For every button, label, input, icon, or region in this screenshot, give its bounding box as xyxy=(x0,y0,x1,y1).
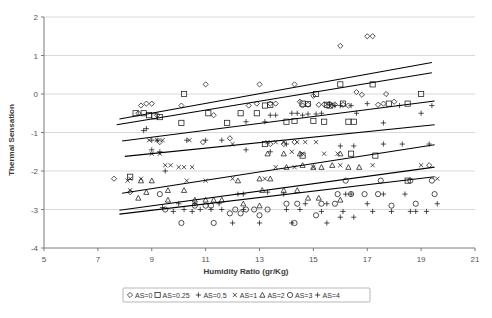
data-point xyxy=(206,111,211,116)
y-tick-label--3: -3 xyxy=(31,206,39,215)
data-point xyxy=(359,92,364,97)
y-tick-label--1: -1 xyxy=(31,129,39,138)
data-point xyxy=(257,213,262,218)
data-point xyxy=(227,136,232,141)
data-point xyxy=(429,103,434,108)
data-point xyxy=(295,111,300,116)
data-point xyxy=(375,192,380,197)
data-point xyxy=(182,165,186,169)
data-point xyxy=(381,192,386,197)
x-tick-label-7: 7 xyxy=(96,255,101,264)
data-point xyxy=(292,140,297,145)
data-point xyxy=(419,163,423,167)
data-point xyxy=(149,178,154,183)
x-tick-label-15: 15 xyxy=(309,255,318,264)
data-point xyxy=(136,195,141,200)
data-point xyxy=(324,220,329,225)
x-axis-tick-labels: 579111315171921 xyxy=(42,255,480,264)
data-point xyxy=(128,177,132,181)
data-point xyxy=(305,111,310,116)
data-point xyxy=(149,138,154,143)
data-point xyxy=(322,119,327,124)
x-tick-label-17: 17 xyxy=(363,255,372,264)
data-point xyxy=(295,188,300,193)
data-point xyxy=(303,140,307,144)
data-point xyxy=(429,178,434,183)
data-point xyxy=(348,151,353,156)
x-tick-label-21: 21 xyxy=(471,255,480,264)
legend-label: AS=0 xyxy=(135,292,152,299)
trendline-AS-0-25-fit xyxy=(117,73,432,125)
data-point xyxy=(177,165,181,169)
data-point xyxy=(144,101,149,106)
data-point xyxy=(211,220,216,225)
data-point xyxy=(281,151,286,156)
data-point xyxy=(165,197,170,202)
data-point xyxy=(179,220,184,225)
data-point xyxy=(338,197,343,202)
data-point xyxy=(346,119,351,124)
data-point xyxy=(160,138,164,142)
data-point xyxy=(338,82,343,87)
data-point xyxy=(338,215,343,220)
legend-item-AS-0-25[interactable]: AS=0.25 xyxy=(155,292,190,299)
x-tick-label-19: 19 xyxy=(417,255,426,264)
data-point xyxy=(185,179,189,183)
data-point xyxy=(351,119,356,124)
data-point xyxy=(227,211,232,216)
data-point xyxy=(262,119,267,124)
data-point xyxy=(427,163,432,168)
data-point xyxy=(346,165,351,170)
data-point xyxy=(413,201,418,206)
data-point xyxy=(338,43,343,48)
data-point xyxy=(257,176,262,181)
data-point xyxy=(295,140,299,144)
data-point xyxy=(268,113,273,118)
data-point xyxy=(375,102,380,107)
x-tick-label-13: 13 xyxy=(255,255,264,264)
y-tick-label-0: 0 xyxy=(34,90,39,99)
trendline-AS-3-fit xyxy=(119,167,434,210)
data-point xyxy=(274,165,278,169)
data-point xyxy=(219,207,224,212)
data-point xyxy=(284,201,289,206)
data-point xyxy=(319,201,324,206)
data-point xyxy=(292,82,297,87)
y-axis-tick-labels: 210-1-2-3-4 xyxy=(31,13,39,253)
data-point xyxy=(254,111,259,116)
data-point xyxy=(257,220,262,225)
data-point xyxy=(273,101,278,106)
data-point xyxy=(235,178,240,183)
series-AS-3 xyxy=(157,178,437,226)
x-tick-label-11: 11 xyxy=(201,255,210,264)
data-point xyxy=(381,120,386,125)
data-point xyxy=(263,177,267,181)
data-point xyxy=(389,203,394,208)
x-tick-label-9: 9 xyxy=(150,255,155,264)
data-point xyxy=(289,220,294,225)
data-point xyxy=(273,113,278,118)
data-point xyxy=(370,34,375,39)
data-point xyxy=(290,150,294,154)
data-point xyxy=(257,203,262,208)
data-point xyxy=(241,201,246,206)
data-point xyxy=(203,82,208,87)
data-point xyxy=(322,152,326,156)
data-point xyxy=(316,102,321,107)
data-point xyxy=(432,192,437,197)
data-point xyxy=(238,111,243,116)
y-tick-label-2: 2 xyxy=(34,13,39,22)
tick-marks-group xyxy=(41,17,475,251)
series-AS-1 xyxy=(125,138,439,192)
data-point xyxy=(300,113,305,118)
data-point xyxy=(338,163,342,167)
data-point xyxy=(181,207,186,212)
y-tick-label--2: -2 xyxy=(31,167,39,176)
data-point xyxy=(365,201,370,206)
data-point xyxy=(330,163,335,168)
data-point xyxy=(230,177,234,181)
data-point xyxy=(138,103,143,108)
data-point xyxy=(211,113,216,118)
data-point xyxy=(381,141,386,146)
series-AS-0-5 xyxy=(141,101,440,214)
